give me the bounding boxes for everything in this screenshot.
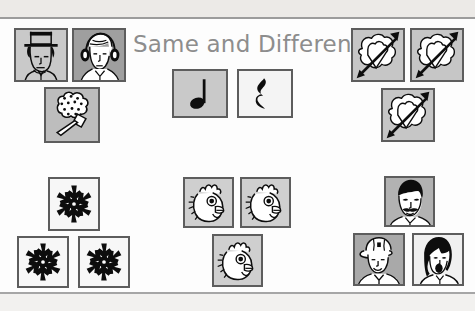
snowflake-icon	[80, 238, 128, 286]
tile-person-with-headphones[interactable]	[72, 28, 126, 82]
slide-canvas: Same and Different	[0, 0, 475, 311]
chicken-head-icon	[242, 179, 289, 226]
snowflake-icon	[19, 238, 67, 286]
bottom-band	[0, 294, 475, 311]
person-with-headphones-icon	[74, 30, 124, 80]
tile-heart-with-arrow-3[interactable]	[381, 88, 435, 142]
tile-chicken-head-1[interactable]	[183, 177, 234, 228]
heart-with-arrow-icon	[353, 30, 403, 80]
tile-quarter-note[interactable]	[172, 69, 228, 118]
tile-person-in-cap[interactable]	[353, 233, 405, 286]
tile-chicken-head-2[interactable]	[240, 177, 291, 228]
tile-chicken-head-3[interactable]	[212, 234, 263, 287]
person-in-cap-icon	[355, 235, 403, 284]
tile-snowflake-1[interactable]	[48, 177, 100, 231]
top-band	[0, 0, 475, 17]
heart-with-arrow-icon	[383, 90, 433, 140]
tile-quarter-rest[interactable]	[237, 69, 293, 118]
page-title: Same and Different	[133, 27, 353, 61]
man-in-top-hat-icon	[16, 30, 66, 80]
bouquet-with-mallet-icon	[46, 89, 98, 141]
man-with-mustache-icon	[386, 178, 433, 225]
tile-bouquet-with-mallet[interactable]	[44, 87, 100, 143]
tile-snowflake-2[interactable]	[17, 236, 69, 288]
chicken-head-icon	[185, 179, 232, 226]
tile-man-with-mustache[interactable]	[384, 176, 435, 227]
tile-man-in-top-hat[interactable]	[14, 28, 68, 82]
tile-heart-with-arrow-2[interactable]	[410, 28, 464, 82]
woman-singing-icon	[414, 235, 462, 284]
heart-with-arrow-icon	[412, 30, 462, 80]
tile-snowflake-3[interactable]	[78, 236, 130, 288]
tile-heart-with-arrow-1[interactable]	[351, 28, 405, 82]
snowflake-icon	[50, 179, 98, 229]
top-rule-line	[0, 17, 475, 19]
quarter-rest-icon	[239, 71, 291, 116]
quarter-note-icon	[174, 71, 226, 116]
tile-woman-singing[interactable]	[412, 233, 464, 286]
chicken-head-icon	[214, 236, 261, 285]
